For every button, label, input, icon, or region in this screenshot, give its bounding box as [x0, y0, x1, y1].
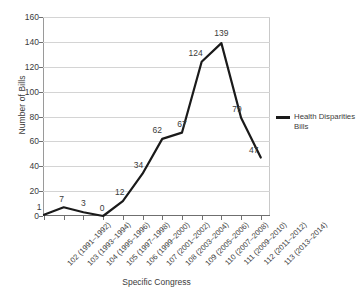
x-tickmark	[241, 216, 242, 220]
y-axis-tick-labels: 160140120100806040200	[17, 0, 39, 298]
plot-area: 1730123462671241397947	[43, 17, 270, 216]
data-point-label: 34	[134, 161, 143, 170]
data-point-label: 67	[177, 120, 186, 129]
data-point-label: 124	[189, 49, 203, 58]
data-point-label: 62	[153, 126, 162, 135]
data-point-label: 7	[59, 195, 64, 204]
y-tick-label: 40	[17, 162, 39, 171]
y-tick-label: 140	[17, 38, 39, 47]
x-tickmark	[202, 216, 203, 220]
y-tick-label: 120	[17, 63, 39, 72]
series-health-disparities-bills	[43, 17, 270, 216]
y-tick-label: 160	[17, 13, 39, 22]
x-axis-title: Specific Congress	[43, 277, 270, 287]
y-tick-label: 20	[17, 187, 39, 196]
legend-line-swatch	[276, 116, 290, 119]
data-point-label: 1	[37, 203, 42, 212]
x-tickmark	[162, 216, 163, 220]
data-point-label: 139	[214, 29, 228, 38]
x-tickmark	[123, 216, 124, 220]
legend-label: Health Disparities Bills	[294, 112, 358, 132]
line-chart: Number of Bills 160140120100806040200 17…	[0, 0, 362, 298]
x-tickmark	[44, 216, 45, 220]
x-tickmark	[182, 216, 183, 220]
y-tick-label: 100	[17, 88, 39, 97]
data-point-label: 47	[249, 146, 258, 155]
y-tick-label: 80	[17, 113, 39, 122]
x-tickmark	[221, 216, 222, 220]
data-point-label: 0	[100, 204, 105, 213]
data-point-label: 79	[232, 105, 241, 114]
y-tick-label: 0	[17, 212, 39, 221]
chart-legend: Health Disparities Bills	[276, 112, 362, 132]
y-tickmark	[39, 216, 43, 217]
x-tickmark	[261, 216, 262, 220]
y-tick-label: 60	[17, 137, 39, 146]
x-tickmark	[83, 216, 84, 220]
x-tickmark	[64, 216, 65, 220]
data-point-label: 3	[81, 199, 86, 208]
data-point-label: 12	[115, 188, 124, 197]
x-tickmark	[143, 216, 144, 220]
